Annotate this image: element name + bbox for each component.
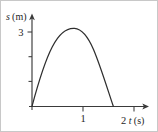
y-axis-unit: (m) (12, 11, 26, 23)
y-axis-title: s(m) (6, 11, 27, 23)
y-axis-variable: s (6, 11, 10, 22)
x-axis-title: 2t(s) (121, 115, 144, 127)
x-axis-unit: (s) (134, 115, 145, 127)
graph-figure: 3 1 s(m) 2t(s) (0, 0, 158, 132)
plot-canvas: 3 1 s(m) 2t(s) (1, 1, 158, 132)
x-axis-group (29, 104, 149, 112)
x-tick-label-1: 1 (80, 113, 85, 124)
displacement-curve (32, 28, 113, 106)
x-axis-variable: t (129, 115, 132, 126)
x-tick-label-2: 2 (121, 115, 126, 126)
y-tick-label-3: 3 (18, 27, 23, 38)
y-axis-group (28, 14, 35, 107)
